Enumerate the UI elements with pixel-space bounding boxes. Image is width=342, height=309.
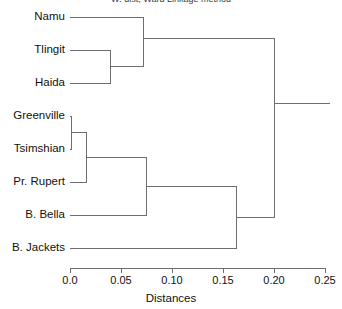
leaf-label-b-bella: B. Bella bbox=[25, 209, 65, 221]
link-south-bjackets bbox=[70, 186, 236, 248]
link-namu-tlingithaida bbox=[70, 17, 143, 66]
leaf-label-namu: Namu bbox=[34, 11, 65, 23]
xtick-label-025: 0.25 bbox=[305, 275, 342, 286]
xtick-label-005: 0.05 bbox=[101, 275, 141, 286]
dendrogram-links bbox=[70, 17, 330, 248]
dendrogram-plot: W: dist, Ward Linkage method Namu Tlingi… bbox=[0, 0, 342, 309]
leaf-label-haida: Haida bbox=[35, 77, 65, 89]
leaf-label-tsimshian: Tsimshian bbox=[14, 143, 65, 155]
xtick-label-010: 0.10 bbox=[152, 275, 192, 286]
leaf-label-b-jackets: B. Jackets bbox=[12, 242, 65, 254]
chart-title: W: dist, Ward Linkage method bbox=[0, 0, 342, 4]
x-axis-title: Distances bbox=[0, 292, 342, 304]
link-gt-prrupert bbox=[70, 132, 86, 182]
link-gtpr-bbella bbox=[70, 157, 146, 215]
link-tlingit-haida bbox=[70, 50, 110, 83]
xtick-label-015: 0.15 bbox=[203, 275, 243, 286]
link-root bbox=[143, 38, 274, 217]
x-axis bbox=[70, 268, 325, 273]
leaf-label-tlingit: Tlingit bbox=[34, 44, 65, 56]
leaf-label-pr-rupert: Pr. Rupert bbox=[13, 176, 65, 188]
leaf-label-greenville: Greenville bbox=[13, 110, 65, 122]
xtick-label-020: 0.20 bbox=[254, 275, 294, 286]
xtick-label-0: 0.0 bbox=[50, 275, 90, 286]
link-greenville-tsimshian bbox=[70, 116, 71, 149]
